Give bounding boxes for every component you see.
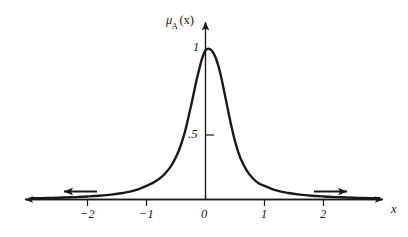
x-tick-label-neg1: −1 [139, 208, 154, 221]
y-tick-label-one: 1 [193, 41, 199, 54]
y-axis-title-subscript: A [172, 21, 178, 31]
x-tick-label-1: 1 [261, 208, 267, 221]
y-axis-title: μA(x) [166, 14, 194, 29]
y-axis-title-argument: (x) [179, 13, 194, 27]
membership-function-figure: μA(x) x 1 .5 −2 −1 0 1 2 [0, 0, 408, 237]
plot-canvas [0, 0, 408, 237]
x-tick-label-neg2: −2 [80, 208, 95, 221]
x-tick-label-2: 2 [320, 208, 326, 221]
y-tick-label-half: .5 [188, 128, 197, 141]
x-axis-title: x [391, 203, 397, 216]
x-tick-label-zero: 0 [201, 208, 207, 221]
